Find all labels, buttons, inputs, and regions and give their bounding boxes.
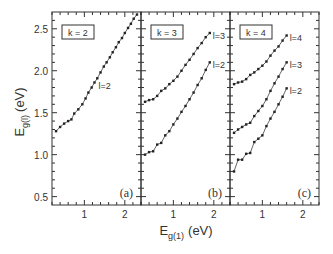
data-point — [188, 59, 190, 61]
data-point — [196, 84, 198, 86]
data-point — [277, 45, 279, 47]
data-point — [241, 80, 243, 82]
panel-frame — [230, 12, 319, 205]
x-tick-label: 2 — [211, 209, 217, 220]
data-point — [285, 87, 287, 89]
series-l2: l=2 — [144, 60, 225, 156]
data-point — [84, 97, 86, 99]
data-point — [237, 81, 239, 83]
data-point — [281, 68, 283, 70]
data-point — [70, 118, 72, 120]
data-point — [200, 42, 202, 44]
data-point — [281, 96, 283, 98]
y-tick-label: 2.0 — [34, 66, 48, 77]
data-point — [273, 111, 275, 113]
data-point — [67, 120, 69, 122]
y-axis: 0.51.01.52.02.5 — [34, 24, 48, 203]
x-tick-label: 1 — [82, 209, 88, 220]
series-line — [145, 33, 210, 102]
data-point — [205, 69, 207, 71]
data-point — [90, 86, 92, 88]
data-point — [261, 134, 263, 136]
data-point — [96, 77, 98, 79]
data-point — [73, 112, 75, 114]
y-tick-label: 1.5 — [34, 108, 48, 119]
data-point — [127, 27, 129, 29]
series-label: l=4 — [290, 33, 302, 43]
data-point — [253, 115, 255, 117]
data-point — [261, 105, 263, 107]
k-label: k = 3 — [157, 28, 177, 38]
data-point — [93, 81, 95, 83]
panel-label: (a) — [120, 186, 133, 200]
y-tick-label: 0.5 — [34, 192, 48, 203]
data-point — [269, 54, 271, 56]
data-point — [257, 110, 259, 112]
y-axis-label: Eg(l)(eV) — [12, 87, 30, 136]
panel-frame — [52, 12, 141, 205]
series-label: l=2 — [290, 86, 302, 96]
data-point — [192, 91, 194, 93]
x-axis: 121212 — [82, 209, 306, 220]
data-point — [130, 23, 132, 25]
k-label-box: k = 2 — [62, 25, 94, 39]
data-point — [164, 134, 166, 136]
data-point — [253, 141, 255, 143]
data-point — [184, 105, 186, 107]
data-point — [261, 65, 263, 67]
data-point — [233, 170, 235, 172]
data-point — [87, 91, 89, 93]
data-point — [133, 18, 135, 20]
data-point — [136, 13, 138, 15]
data-point — [277, 75, 279, 77]
data-point — [273, 49, 275, 51]
data-point — [265, 60, 267, 62]
data-point — [59, 126, 61, 128]
data-point — [168, 83, 170, 85]
data-point — [237, 158, 239, 160]
x-tick-label: 1 — [260, 209, 266, 220]
data-point — [245, 153, 247, 155]
data-point — [188, 98, 190, 100]
data-point — [233, 132, 235, 134]
panel-a: k = 2(a)l=2 — [52, 12, 141, 205]
x-axis-label: Eg(1)(eV) — [159, 223, 212, 241]
data-point — [245, 123, 247, 125]
data-point — [249, 152, 251, 154]
data-point — [144, 101, 146, 103]
data-point — [245, 78, 247, 80]
data-point — [176, 75, 178, 77]
y-tick-label: 2.5 — [34, 24, 48, 35]
data-point — [249, 122, 251, 124]
data-point — [184, 64, 186, 66]
data-point — [209, 61, 211, 63]
k-label: k = 2 — [68, 28, 88, 38]
data-point — [269, 90, 271, 92]
data-point — [249, 74, 251, 76]
x-axis-label-unit: (eV) — [188, 223, 213, 238]
data-point — [205, 36, 207, 38]
data-point — [55, 130, 57, 132]
data-point — [152, 150, 154, 152]
data-point — [168, 130, 170, 132]
data-point — [109, 56, 111, 58]
k-label-box: k = 3 — [151, 25, 183, 39]
data-point — [180, 70, 182, 72]
data-point — [152, 98, 154, 100]
data-point — [160, 142, 162, 144]
panel-c: k = 4(c)l=4l=3l=2 — [230, 12, 319, 205]
data-point — [196, 47, 198, 49]
data-point — [285, 61, 287, 63]
x-tick-label: 2 — [122, 209, 128, 220]
data-point — [111, 51, 113, 53]
chart-svg: k = 2(a)l=2k = 3(b)l=3l=2k = 4(c)l=4l=3l… — [0, 0, 333, 254]
data-point — [144, 153, 146, 155]
y-axis-label-main: E — [12, 128, 27, 137]
data-point — [105, 61, 107, 63]
panel-b: k = 3(b)l=3l=2 — [141, 12, 230, 205]
data-point — [99, 71, 101, 73]
series-label: l=2 — [213, 60, 225, 70]
data-point — [148, 99, 150, 101]
data-point — [148, 151, 150, 153]
data-point — [172, 80, 174, 82]
